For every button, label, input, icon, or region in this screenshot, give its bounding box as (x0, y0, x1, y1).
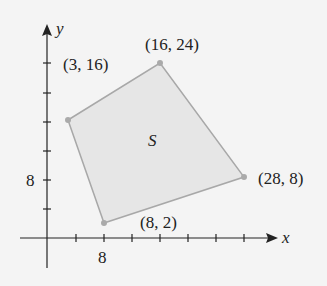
x-axis (20, 234, 270, 242)
y-tick-label: 8 (26, 171, 35, 190)
vertex-28-8 (241, 174, 247, 180)
region-diagram: y x 8 8 S (3, 16) (16, 24) (28, 8) (8, 2… (0, 0, 327, 286)
vertex-3-16 (65, 117, 71, 123)
vertex-label: (16, 24) (145, 35, 199, 54)
vertex-label: (3, 16) (63, 55, 108, 74)
vertex-label: (28, 8) (258, 169, 303, 188)
y-axis (43, 32, 51, 268)
region-label: S (148, 131, 157, 150)
y-axis-label: y (54, 19, 64, 38)
vertex-label: (8, 2) (140, 213, 177, 232)
vertex-16-24 (157, 60, 163, 66)
x-tick-label: 8 (98, 248, 107, 267)
vertex-8-2 (101, 220, 107, 226)
x-axis-label: x (281, 228, 290, 247)
